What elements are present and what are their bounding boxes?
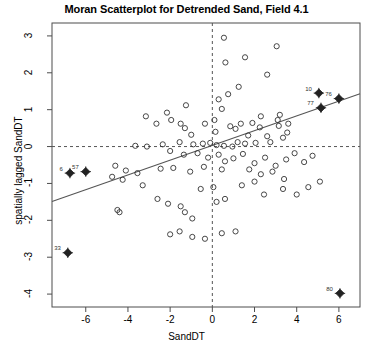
data-point (239, 183, 244, 188)
point-label: 77 (307, 100, 314, 106)
data-point (189, 132, 194, 137)
data-point (200, 141, 205, 146)
data-point (177, 140, 182, 145)
data-point (202, 121, 207, 126)
data-point (133, 143, 138, 148)
data-point (275, 117, 280, 122)
influential-data-point: 10 (305, 86, 324, 99)
data-point (177, 229, 182, 234)
data-point (219, 106, 224, 111)
data-point (226, 92, 231, 97)
data-point (276, 123, 281, 128)
data-point (221, 143, 226, 148)
data-point (190, 216, 195, 221)
data-point (265, 134, 270, 139)
data-point (155, 196, 160, 201)
data-point (306, 185, 311, 190)
data-point (292, 151, 297, 156)
influential-data-point: 57 (72, 164, 91, 177)
x-axis-tick-label: -2 (158, 314, 182, 325)
data-point (277, 112, 282, 117)
data-point (238, 121, 243, 126)
data-point (182, 126, 187, 131)
data-point (213, 129, 218, 134)
data-point (258, 114, 263, 119)
data-point (294, 192, 299, 197)
data-point (191, 142, 196, 147)
data-point (169, 117, 174, 122)
data-point (258, 172, 263, 177)
x-axis-tick-label: 4 (285, 314, 309, 325)
y-axis-tick-label: 0 (23, 134, 34, 158)
point-label: 10 (305, 86, 312, 92)
data-point (182, 210, 187, 215)
data-point (216, 97, 221, 102)
x-axis-tick-label: 0 (200, 314, 224, 325)
data-point (273, 163, 278, 168)
data-point (265, 72, 270, 77)
data-point (280, 135, 285, 140)
data-point (285, 130, 290, 135)
data-point (240, 151, 245, 156)
moran-scatterplot-figure: Moran Scatterplot for Detrended Sand, Fi… (0, 0, 373, 356)
influential-data-point: 76 (325, 91, 344, 104)
y-axis-tick-label: 3 (23, 23, 34, 47)
data-point (253, 140, 258, 145)
influential-data-point: 80 (326, 286, 345, 299)
x-axis-tick-label: 2 (243, 314, 267, 325)
data-point (164, 110, 169, 115)
data-point (222, 196, 227, 201)
data-point (242, 55, 247, 60)
data-point (154, 121, 159, 126)
data-point (208, 140, 213, 145)
data-point (252, 161, 257, 166)
data-point (228, 124, 233, 129)
data-point (236, 84, 241, 89)
data-point (317, 179, 322, 184)
point-label: 33 (54, 245, 61, 251)
data-point (206, 155, 211, 160)
data-point (261, 192, 266, 197)
y-axis-tick-label: 1 (23, 97, 34, 121)
data-point (219, 167, 224, 172)
data-point (252, 179, 257, 184)
x-axis-tick-label: -4 (116, 314, 140, 325)
data-point (223, 60, 228, 65)
point-label: 6 (60, 166, 64, 172)
data-point (198, 186, 203, 191)
data-point (216, 152, 221, 157)
data-point (231, 156, 236, 161)
data-point (233, 126, 238, 131)
influential-data-point: 33 (54, 245, 73, 258)
y-axis-tick-label: -1 (23, 171, 34, 195)
chart-canvas: 6573310767780 (0, 0, 373, 356)
data-point (214, 199, 219, 204)
data-point (113, 163, 118, 168)
y-axis-tick-label: -2 (23, 208, 34, 232)
y-axis-tick-label: -4 (23, 282, 34, 306)
data-point (168, 148, 173, 153)
data-point (286, 121, 291, 126)
data-point (233, 229, 238, 234)
data-point (195, 151, 200, 156)
data-point (140, 183, 145, 188)
data-point (280, 186, 285, 191)
data-point (302, 159, 307, 164)
data-point (178, 204, 183, 209)
data-point (274, 44, 279, 49)
data-point (247, 167, 252, 172)
data-point (250, 120, 255, 125)
data-point (246, 133, 251, 138)
data-point (242, 141, 247, 146)
data-point (183, 103, 188, 108)
data-point (222, 159, 227, 164)
data-point (178, 121, 183, 126)
y-axis-tick-label: 2 (23, 60, 34, 84)
data-point (219, 231, 224, 236)
data-point (165, 201, 170, 206)
point-label: 57 (72, 164, 79, 170)
data-point (235, 140, 240, 145)
data-point (120, 177, 125, 182)
data-point (281, 176, 286, 181)
data-point (310, 153, 315, 158)
